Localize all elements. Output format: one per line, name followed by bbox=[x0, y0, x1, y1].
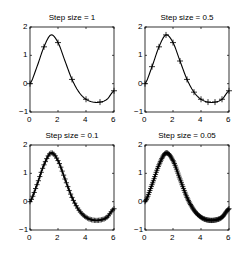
plus-marker bbox=[177, 58, 183, 64]
plus-marker bbox=[41, 44, 47, 50]
y-tick-label: 1 bbox=[138, 50, 142, 59]
plus-marker bbox=[62, 176, 67, 181]
y-tick-label: −1 bbox=[19, 107, 28, 116]
plus-marker bbox=[170, 40, 176, 46]
y-tick-label: 0 bbox=[138, 79, 142, 88]
y-tick-label: 2 bbox=[138, 22, 142, 31]
x-tick-label: 2 bbox=[170, 115, 174, 124]
x-tick-label: 0 bbox=[27, 115, 31, 124]
y-tick-label: 0 bbox=[138, 197, 142, 206]
plus-marker bbox=[97, 99, 103, 105]
x-tick-label: 6 bbox=[111, 233, 115, 242]
x-tick-label: 2 bbox=[55, 115, 59, 124]
x-tick-label: 2 bbox=[55, 233, 59, 242]
y-tick-label: 0 bbox=[23, 197, 27, 206]
plus-marker bbox=[156, 44, 162, 50]
plus-marker bbox=[36, 178, 41, 183]
plus-marker bbox=[39, 170, 44, 175]
plus-marker bbox=[205, 99, 211, 105]
plus-marker bbox=[212, 99, 218, 105]
y-tick-label: −1 bbox=[134, 225, 143, 234]
axes-box bbox=[145, 27, 229, 112]
plus-marker bbox=[69, 195, 74, 200]
y-tick-label: 2 bbox=[138, 140, 142, 149]
y-tick-label: 1 bbox=[138, 168, 142, 177]
plus-marker bbox=[64, 180, 69, 185]
plus-marker bbox=[41, 162, 46, 167]
plot-panel-4 bbox=[142, 145, 231, 230]
plot-panel-3 bbox=[27, 145, 116, 230]
solution-curve bbox=[145, 35, 229, 103]
y-tick-label: 0 bbox=[23, 79, 27, 88]
x-tick-label: 4 bbox=[83, 115, 87, 124]
y-tick-label: 1 bbox=[23, 50, 27, 59]
plot-panel-2 bbox=[142, 27, 232, 112]
plus-marker bbox=[184, 76, 190, 82]
y-tick-label: −1 bbox=[134, 107, 143, 116]
plus-marker bbox=[65, 184, 70, 189]
plus-marker bbox=[33, 186, 38, 191]
x-tick-label: 4 bbox=[198, 233, 202, 242]
x-tick-label: 6 bbox=[226, 233, 230, 242]
solution-curve bbox=[30, 153, 114, 221]
x-tick-label: 6 bbox=[226, 115, 230, 124]
plus-marker bbox=[43, 159, 48, 164]
plus-marker bbox=[32, 190, 37, 195]
y-tick-label: 1 bbox=[23, 168, 27, 177]
plus-marker bbox=[57, 161, 62, 166]
y-tick-label: −1 bbox=[19, 225, 28, 234]
plus-marker bbox=[142, 81, 148, 87]
solution-curve bbox=[30, 35, 114, 103]
x-tick-label: 4 bbox=[198, 115, 202, 124]
plus-marker bbox=[149, 64, 155, 70]
plus-marker bbox=[30, 194, 35, 199]
axes-box bbox=[30, 27, 114, 112]
x-tick-label: 4 bbox=[83, 233, 87, 242]
plus-marker bbox=[61, 173, 66, 178]
y-tick-label: 2 bbox=[23, 22, 27, 31]
x-tick-label: 6 bbox=[111, 115, 115, 124]
x-tick-label: 0 bbox=[142, 115, 146, 124]
plus-marker bbox=[71, 198, 76, 203]
plus-marker bbox=[68, 191, 73, 196]
plus-marker bbox=[55, 40, 61, 46]
plot-panel-1 bbox=[27, 27, 117, 112]
x-tick-label: 0 bbox=[27, 233, 31, 242]
plus-marker bbox=[60, 169, 65, 174]
plus-marker bbox=[67, 188, 72, 193]
plus-marker bbox=[27, 81, 33, 87]
y-tick-label: 2 bbox=[23, 140, 27, 149]
plus-marker bbox=[69, 76, 75, 82]
chart-canvas bbox=[0, 0, 240, 255]
x-tick-label: 0 bbox=[142, 233, 146, 242]
plus-marker bbox=[34, 182, 39, 187]
x-tick-label: 2 bbox=[170, 233, 174, 242]
plus-marker bbox=[40, 166, 45, 171]
plus-marker bbox=[58, 165, 63, 170]
plus-marker bbox=[37, 174, 42, 179]
